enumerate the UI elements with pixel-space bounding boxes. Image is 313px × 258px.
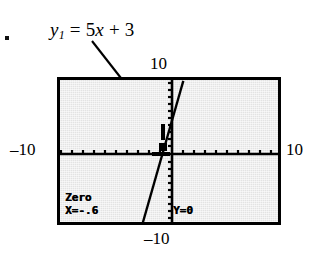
stray-ink-dot <box>5 36 9 40</box>
readout-x-value: X=-.6 <box>65 205 98 216</box>
equation-constant-term: + 3 <box>104 19 135 40</box>
axis-caption-ymin: –10 <box>144 229 170 249</box>
equation-x-variable: x <box>95 19 104 40</box>
axis-caption-xmin: –10 <box>10 140 36 160</box>
figure-canvas: y1 = 5x + 3 10 –10 10 –10 <box>0 0 313 258</box>
readout-y-value: Y=0 <box>173 205 193 216</box>
equation-equals-coefficient: = 5 <box>65 19 96 40</box>
readout-operation-label: Zero <box>65 192 92 203</box>
axis-caption-xmax: 10 <box>286 140 303 160</box>
calculator-screen-inner: Zero X=-.6 Y=0 <box>60 80 278 222</box>
equation-label: y1 = 5x + 3 <box>50 19 135 43</box>
calculator-screen: Zero X=-.6 Y=0 <box>57 77 281 225</box>
graph-plot <box>60 80 278 222</box>
equation-variable: y <box>50 19 59 40</box>
axis-caption-ymax: 10 <box>150 54 167 74</box>
